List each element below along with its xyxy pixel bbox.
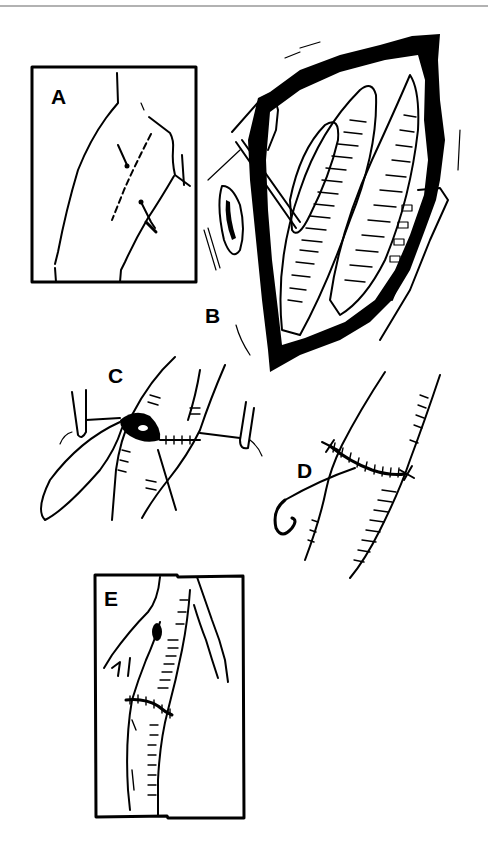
panel-c-lumen-highlight bbox=[138, 425, 148, 431]
panel-c-clamp-left bbox=[72, 390, 86, 437]
panel-a-label: A bbox=[51, 85, 66, 108]
panel-b-skin-line-2 bbox=[208, 150, 240, 180]
panel-d-curved-needle bbox=[275, 500, 295, 534]
panel-b-flap-fill bbox=[226, 200, 236, 240]
panel-c-clamp-right-thread bbox=[200, 433, 240, 438]
panel-b-skin-line-4 bbox=[236, 325, 250, 355]
panel-e-vessel-trunk-right bbox=[158, 590, 190, 815]
panel-a-mark-upper bbox=[118, 145, 127, 165]
panel-b-skin-line-1 bbox=[285, 42, 320, 58]
panel-c-shading bbox=[118, 395, 200, 490]
panel-e-label: E bbox=[104, 587, 118, 610]
surgical-figure: A B bbox=[0, 0, 488, 856]
panel-d-suture-line bbox=[330, 446, 405, 475]
panel-e-side-branch bbox=[112, 658, 130, 676]
panel-e: E bbox=[95, 575, 244, 818]
panel-c: C bbox=[41, 357, 262, 520]
panel-b-label: B bbox=[205, 304, 220, 327]
panel-e-suture-line bbox=[126, 700, 172, 715]
panel-c-label: C bbox=[108, 364, 123, 387]
panel-d: D bbox=[275, 372, 440, 578]
panel-a-dot-lower bbox=[139, 200, 144, 205]
panel-b: B bbox=[204, 34, 460, 372]
panel-c-clamp-left-tail bbox=[60, 432, 72, 444]
panel-b-skin-line-5 bbox=[458, 130, 460, 170]
panel-e-branch-right-inner bbox=[194, 605, 218, 678]
panel-d-thread bbox=[285, 468, 355, 500]
panel-c-vessel-upper-right bbox=[188, 370, 200, 420]
panel-c-clamp-left-thread bbox=[86, 418, 120, 420]
panel-c-clamp-right-tail bbox=[250, 440, 262, 456]
panel-d-label: D bbox=[297, 459, 312, 482]
panel-d-vessel-left-wall bbox=[305, 372, 385, 560]
panel-c-crossing-thread bbox=[158, 450, 176, 510]
panel-b-skin-line-3 bbox=[204, 228, 220, 270]
panel-e-vessel-trunk-left bbox=[127, 622, 160, 810]
panel-c-vessel-right-wall bbox=[142, 365, 225, 518]
panel-a-lower-contour bbox=[120, 176, 174, 282]
panel-a: A bbox=[32, 67, 196, 282]
panel-a-dot-upper bbox=[125, 164, 130, 169]
panel-e-frame bbox=[95, 575, 244, 818]
panel-a-faint-mark bbox=[141, 103, 144, 110]
panel-e-dark-spot bbox=[152, 623, 162, 641]
